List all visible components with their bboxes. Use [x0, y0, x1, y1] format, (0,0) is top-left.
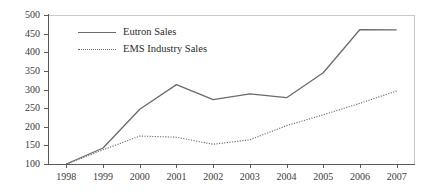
chart-legend: Eutron Sales EMS Industry Sales — [78, 24, 207, 58]
legend-swatch-dotted-icon — [78, 46, 116, 53]
legend-item-eutron-sales: Eutron Sales — [78, 24, 207, 41]
legend-label-ems-industry-sales: EMS Industry Sales — [123, 44, 207, 55]
line-chart: 500450400350300250200150100 199819992000… — [0, 0, 433, 193]
legend-item-ems-industry-sales: EMS Industry Sales — [78, 41, 207, 58]
series-line-ems-industry-sales — [66, 91, 396, 164]
legend-label-eutron-sales: Eutron Sales — [123, 27, 176, 38]
series-layer — [0, 0, 433, 193]
legend-swatch-solid-icon — [78, 29, 116, 36]
